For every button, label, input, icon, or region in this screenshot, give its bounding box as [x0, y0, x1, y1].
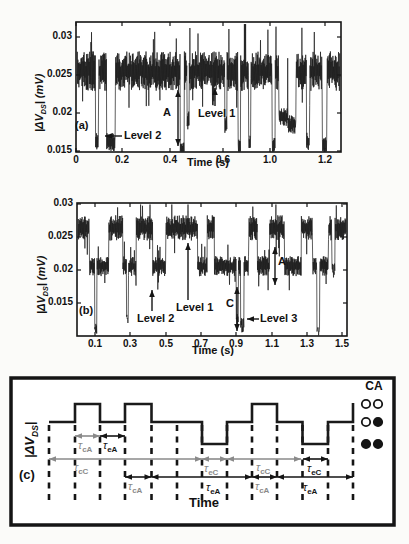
figure-canvas — [0, 0, 409, 544]
legend-circle-open — [362, 400, 370, 408]
figure-rtn-three-panel: |ΔVDS| (mV) Time (s) (a) |ΔVDS| (mV) Tim… — [0, 0, 409, 544]
legend-circle-open — [362, 418, 370, 426]
legend-circle-open — [374, 400, 382, 408]
legend-circle-filled — [362, 440, 370, 448]
legend-circle-filled — [374, 418, 382, 426]
legend-circle-filled — [374, 440, 382, 448]
